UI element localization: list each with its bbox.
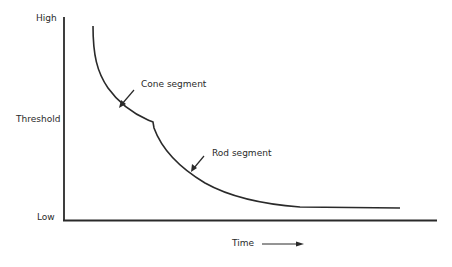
y-label-threshold: Threshold: [16, 114, 60, 124]
chart-canvas: [0, 0, 452, 267]
rod-arrow: [191, 156, 204, 172]
adaptation-curve: [93, 26, 400, 208]
x-label-time: Time: [232, 238, 254, 248]
time-arrow: [262, 242, 304, 247]
y-label-high: High: [36, 13, 57, 23]
cone-arrow: [119, 90, 134, 108]
y-label-low: Low: [37, 212, 55, 222]
annotation-cone: Cone segment: [141, 79, 206, 89]
annotation-rod: Rod segment: [212, 148, 271, 158]
